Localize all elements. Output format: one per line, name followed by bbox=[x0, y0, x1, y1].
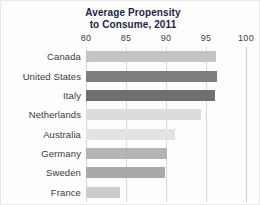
x-axis-tick-labels: 80859095100 bbox=[1, 33, 259, 47]
chart-title: Average Propensity to Consume, 2011 bbox=[53, 7, 213, 30]
bar-series: CanadaUnited StatesItalyNetherlandsAustr… bbox=[86, 47, 246, 202]
x-tick-label-100: 100 bbox=[238, 33, 254, 43]
x-tick-label-95: 95 bbox=[201, 33, 212, 43]
bar[interactable] bbox=[86, 187, 120, 198]
bar-category-label: Germany bbox=[41, 148, 81, 159]
bar-row[interactable]: Canada bbox=[86, 47, 246, 66]
bar[interactable] bbox=[86, 129, 175, 140]
bar-row[interactable]: France bbox=[86, 183, 246, 202]
plot-wrapper: 80859095100 CanadaUnited StatesItalyNeth… bbox=[1, 33, 259, 204]
gridline-100 bbox=[246, 47, 247, 202]
bar-row[interactable]: Germany bbox=[86, 144, 246, 163]
bar-row[interactable]: United States bbox=[86, 66, 246, 85]
bar-category-label: United States bbox=[23, 71, 81, 82]
chart-title-line-2: to Consume, 2011 bbox=[53, 19, 213, 31]
chart-title-line-1: Average Propensity bbox=[53, 7, 213, 19]
bar[interactable] bbox=[86, 148, 167, 159]
bar-category-label: Sweden bbox=[46, 167, 81, 178]
bar[interactable] bbox=[86, 167, 165, 178]
x-tick-label-85: 85 bbox=[121, 33, 132, 43]
chart-figure: Average Propensity to Consume, 2011 8085… bbox=[0, 0, 260, 205]
plot-area: CanadaUnited StatesItalyNetherlandsAustr… bbox=[86, 47, 246, 202]
bar-category-label: France bbox=[51, 187, 81, 198]
bar-category-label: Netherlands bbox=[29, 109, 81, 120]
bar[interactable] bbox=[86, 90, 215, 101]
bar-row[interactable]: Italy bbox=[86, 86, 246, 105]
bar[interactable] bbox=[86, 109, 201, 120]
bar-category-label: Italy bbox=[63, 90, 81, 101]
bar[interactable] bbox=[86, 71, 217, 82]
bar-row[interactable]: Australia bbox=[86, 125, 246, 144]
bar-category-label: Canada bbox=[47, 51, 81, 62]
x-tick-label-90: 90 bbox=[161, 33, 172, 43]
bar-category-label: Australia bbox=[43, 129, 81, 140]
x-tick-label-80: 80 bbox=[81, 33, 92, 43]
bar-row[interactable]: Sweden bbox=[86, 163, 246, 182]
bar-row[interactable]: Netherlands bbox=[86, 105, 246, 124]
bar[interactable] bbox=[86, 51, 216, 62]
